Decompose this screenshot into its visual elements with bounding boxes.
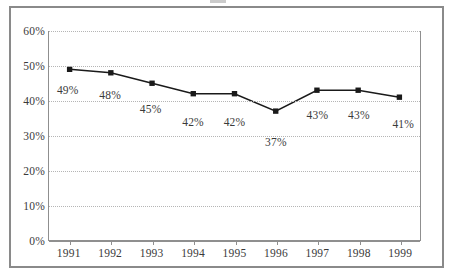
x-tick-label: 1993 [129,247,175,259]
data-point-label: 42% [224,116,246,128]
x-tick-label: 1997 [294,247,340,259]
x-tick-label: 1992 [87,247,133,259]
gridline-20 [49,171,420,172]
y-tick-label: 50% [1,60,45,72]
y-tick-label: 0% [1,235,45,247]
gridline-10 [49,206,420,207]
data-point-label: 48% [99,89,121,101]
data-point-marker [397,94,402,99]
data-point-label: 41% [392,118,414,130]
x-tick-label: 1991 [46,247,92,259]
data-point-marker [67,67,72,72]
data-point-marker [191,91,196,96]
data-point-marker [355,88,360,93]
gridline-0 [49,241,420,242]
x-tick-mark [194,240,195,245]
x-axis-tick-labels: 199119921993199419951996199719981999 [48,247,421,267]
y-axis-tick-labels: 0%10%20%30%40%50%60% [0,31,45,241]
x-tick-mark [360,240,361,245]
gridline-40 [49,101,420,102]
gridline-30 [49,136,420,137]
x-tick-label: 1995 [212,247,258,259]
y-tick-label: 40% [1,95,45,107]
y-tick-label: 10% [1,200,45,212]
scan-artifact [210,0,226,3]
x-tick-mark [318,240,319,245]
data-point-marker [232,91,237,96]
data-point-label: 43% [307,109,329,121]
x-tick-mark [70,240,71,245]
data-point-label: 45% [140,103,162,115]
y-tick-label: 60% [1,25,45,37]
y-tick-label: 20% [1,165,45,177]
x-tick-label: 1994 [170,247,216,259]
x-tick-mark [236,240,237,245]
gridline-60 [49,31,420,32]
plot-area: 49%48%45%42%42%37%43%43%41% [48,31,421,241]
data-point-marker [314,88,319,93]
x-tick-label: 1996 [253,247,299,259]
data-point-marker [149,81,154,86]
data-point-label: 43% [348,109,370,121]
data-point-label: 49% [57,84,79,96]
gridline-50 [49,66,420,67]
data-point-marker [273,108,278,113]
y-tick-label: 30% [1,130,45,142]
data-point-label: 42% [182,116,204,128]
data-point-marker [108,70,113,75]
chart-figure: 0%10%20%30%40%50%60% 49%48%45%42%42%37%4… [0,0,453,277]
data-point-label: 37% [265,136,287,148]
x-tick-mark [111,240,112,245]
x-tick-label: 1999 [377,247,423,259]
x-tick-mark [153,240,154,245]
x-tick-mark [401,240,402,245]
x-tick-mark [277,240,278,245]
x-tick-label: 1998 [336,247,382,259]
